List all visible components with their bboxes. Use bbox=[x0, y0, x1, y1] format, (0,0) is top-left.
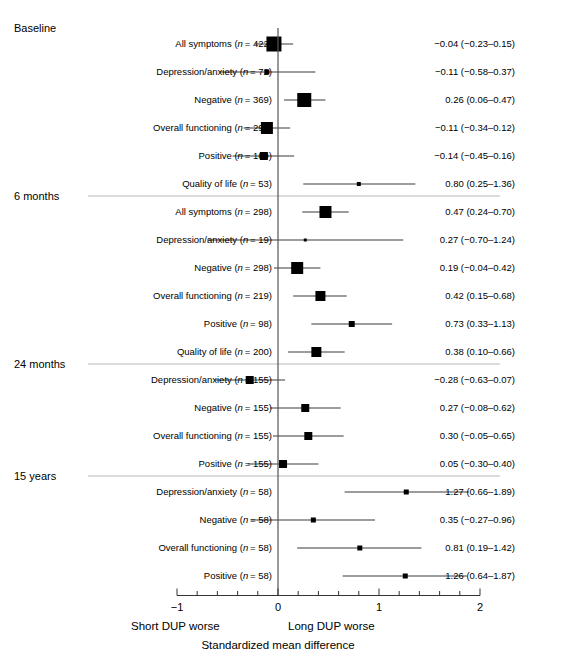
row-value: −0.11 (−0.58–0.37) bbox=[0, 67, 515, 77]
group-header-15-years: 15 years bbox=[14, 471, 56, 482]
x-axis-title: Standardized mean difference bbox=[201, 640, 354, 652]
forest-plot: BaselineAll symptoms (n = 422)−0.04 (−0.… bbox=[0, 0, 572, 659]
row-value: −0.28 (−0.63–0.07) bbox=[0, 375, 515, 385]
row-value: 0.05 (−0.30–0.40) bbox=[0, 459, 515, 469]
row-value: 0.42 (0.15–0.68) bbox=[0, 291, 515, 301]
x-axis-tick-label: 2 bbox=[477, 602, 483, 613]
row-value: 0.27 (−0.70–1.24) bbox=[0, 235, 515, 245]
row-value: 0.81 (0.19–1.42) bbox=[0, 543, 515, 553]
row-value: 1.26 (0.64–1.87) bbox=[0, 571, 515, 581]
row-value: 0.73 (0.33–1.13) bbox=[0, 319, 515, 329]
x-axis-tick-label: 0 bbox=[275, 602, 281, 613]
group-header-baseline: Baseline bbox=[14, 23, 56, 34]
row-value: 0.26 (0.06–0.47) bbox=[0, 95, 515, 105]
row-value: 0.47 (0.24–0.70) bbox=[0, 207, 515, 217]
row-value: 0.27 (−0.08–0.62) bbox=[0, 403, 515, 413]
row-value: 0.80 (0.25–1.36) bbox=[0, 179, 515, 189]
row-value: 0.38 (0.10–0.66) bbox=[0, 347, 515, 357]
row-value: 1.27 (0.66–1.89) bbox=[0, 487, 515, 497]
left-direction-label: Short DUP worse bbox=[131, 621, 220, 633]
row-value: −0.11 (−0.34–0.12) bbox=[0, 123, 515, 133]
row-value: −0.04 (−0.23–0.15) bbox=[0, 39, 515, 49]
x-axis-tick-label: 1 bbox=[376, 602, 382, 613]
group-header-24-months: 24 months bbox=[14, 359, 65, 370]
row-value: 0.19 (−0.04–0.42) bbox=[0, 263, 515, 273]
x-axis-tick-label: −1 bbox=[171, 602, 184, 613]
row-value: 0.30 (−0.05–0.65) bbox=[0, 431, 515, 441]
group-header-6-months: 6 months bbox=[14, 191, 59, 202]
row-value: 0.35 (−0.27–0.96) bbox=[0, 515, 515, 525]
right-direction-label: Long DUP worse bbox=[288, 621, 375, 633]
row-value: −0.14 (−0.45–0.16) bbox=[0, 151, 515, 161]
